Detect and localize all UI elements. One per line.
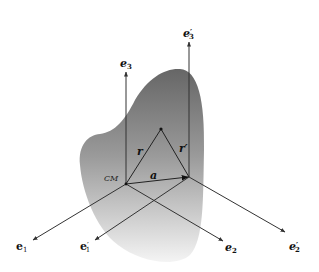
diagram-canvas: e3 e′3 e1 e′1 e2 e′2 r r′ a CM	[0, 0, 319, 272]
label-r-prime: r′	[179, 142, 188, 155]
label-cm: CM	[104, 174, 119, 183]
label-a: a	[150, 169, 157, 182]
cm-point	[125, 183, 128, 186]
axis-e2-prime	[189, 177, 285, 232]
label-e1-prime: e′1	[80, 240, 90, 254]
label-e1: e1	[16, 240, 27, 254]
label-e3: e3	[120, 57, 132, 71]
rigid-body-shape	[80, 69, 204, 262]
point-mass	[159, 127, 162, 130]
label-e2-prime: e′2	[289, 239, 300, 254]
label-e2: e2	[225, 241, 237, 255]
label-e3-prime: e′3	[183, 26, 194, 41]
